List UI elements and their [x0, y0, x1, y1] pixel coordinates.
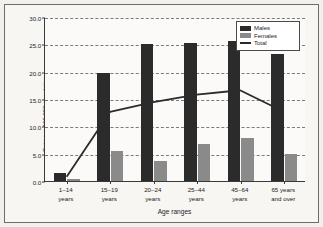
x-axis-tick-label: 65 years and over	[262, 186, 306, 203]
y-axis-tick-label: 20.0	[29, 69, 41, 76]
legend-label: Females	[254, 33, 277, 39]
x-axis-tick-label: 25–44 years	[175, 186, 219, 203]
legend-swatch-icon	[240, 33, 251, 38]
legend-swatch-icon	[240, 42, 251, 44]
legend-item: Males	[240, 25, 296, 33]
legend-label: Males	[254, 25, 270, 31]
x-axis-tick-mark	[110, 181, 111, 184]
legend-label: Total	[254, 40, 267, 46]
chart-legend: MalesFemalesTotal	[236, 21, 300, 51]
chart-canvas: Rate per 100,000 population 0.05.010.015…	[0, 0, 323, 227]
x-axis-tick-mark	[241, 181, 242, 184]
chart-figure: Rate per 100,000 population 0.05.010.015…	[0, 0, 323, 227]
x-axis-tick-label: 20–24 years	[131, 186, 175, 203]
y-axis-tick-label: 15.0	[29, 97, 41, 104]
legend-item: Total	[240, 40, 296, 48]
x-axis-tick-label: 1–14 years	[44, 186, 88, 203]
legend-swatch-icon	[240, 26, 251, 31]
y-axis-tick-mark	[42, 182, 45, 183]
x-axis-tick-mark	[154, 181, 155, 184]
y-axis-tick-label: 25.0	[29, 42, 41, 49]
x-axis-tick-mark	[67, 181, 68, 184]
x-axis-tick-mark	[197, 181, 198, 184]
x-axis-title: Age ranges	[44, 208, 305, 215]
y-axis-tick-label: 10.0	[29, 124, 41, 131]
x-axis-tick-label: 15–19 years	[88, 186, 132, 203]
y-axis-tick-label: 5.0	[33, 151, 41, 158]
x-axis-tick-mark	[284, 181, 285, 184]
x-axis-tick-label: 45–64 years	[218, 186, 262, 203]
y-axis-tick-label: 0.0	[33, 179, 41, 186]
y-axis-tick-label: 30.0	[29, 15, 41, 22]
legend-item: Females	[240, 32, 296, 40]
total-line	[67, 90, 284, 176]
